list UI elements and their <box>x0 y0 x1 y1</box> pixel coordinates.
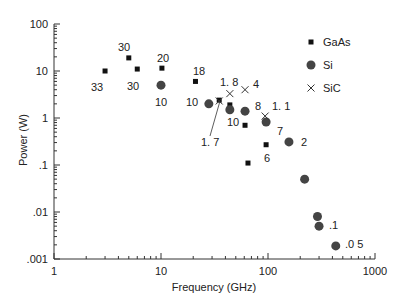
square-marker <box>103 69 108 74</box>
legend-label: Si <box>323 59 333 71</box>
point-label: 10 <box>227 116 239 128</box>
point-label: 2 <box>301 136 307 148</box>
square-marker <box>309 40 314 45</box>
point-label: 4 <box>253 78 259 90</box>
y-tick-label: .01 <box>33 206 48 218</box>
x-tick-label: 1 <box>51 265 57 277</box>
point-label: 6 <box>264 152 270 164</box>
legend-label: GaAs <box>323 36 351 48</box>
circle-marker <box>331 241 340 250</box>
y-axis-label: Power (W) <box>17 114 29 166</box>
point-label: 1. 7 <box>201 136 219 148</box>
point-label: 10 <box>155 96 167 108</box>
point-label: 33 <box>91 81 103 93</box>
power-vs-frequency-chart: 1101001000100101.1.01.001 33303020101810… <box>0 0 403 307</box>
x-tick-label: 10 <box>155 265 167 277</box>
circle-marker <box>300 175 309 184</box>
point-label: 8 <box>255 100 261 112</box>
y-tick-label: .001 <box>27 253 48 265</box>
y-tick-label: 100 <box>30 18 48 30</box>
y-tick-label: .1 <box>39 159 48 171</box>
square-marker <box>135 67 140 72</box>
point-label: 10 <box>186 96 198 108</box>
x-tick-label: 100 <box>259 265 277 277</box>
legend: GaAsSiSiC <box>307 36 352 94</box>
circle-marker <box>225 105 234 114</box>
x-marker <box>308 85 315 92</box>
legend-label: SiC <box>323 82 341 94</box>
annotations: 333030201018101. 848101. 71. 1726.1.0 5 <box>91 41 363 250</box>
x-marker <box>242 86 249 93</box>
y-tick-label: 1 <box>42 112 48 124</box>
circle-marker <box>204 99 213 108</box>
square-marker <box>245 161 250 166</box>
circle-marker <box>315 222 324 231</box>
legend-item-sic: SiC <box>308 82 341 94</box>
circle-marker <box>284 137 293 146</box>
legend-item-gaas: GaAs <box>309 36 352 48</box>
point-label: .0 5 <box>345 238 363 250</box>
point-label: 1. 1 <box>272 100 290 112</box>
x-tick-label: 1000 <box>363 265 387 277</box>
circle-marker <box>307 61 316 70</box>
point-label: 7 <box>277 125 283 137</box>
square-marker <box>126 55 131 60</box>
square-marker <box>193 79 198 84</box>
circle-marker <box>313 212 322 221</box>
square-marker <box>159 66 164 71</box>
point-label: 18 <box>193 65 205 77</box>
square-marker <box>264 142 269 147</box>
circle-marker <box>157 81 166 90</box>
square-marker <box>217 98 222 103</box>
circle-marker <box>241 107 250 116</box>
legend-item-si: Si <box>307 59 333 71</box>
square-marker <box>243 123 248 128</box>
y-tick-label: 10 <box>36 65 48 77</box>
x-marker <box>226 90 233 97</box>
point-label: 30 <box>127 80 139 92</box>
point-label: 20 <box>157 52 169 64</box>
point-label: 1. 8 <box>220 76 238 88</box>
point-label: 30 <box>118 41 130 53</box>
point-label: .1 <box>329 219 338 231</box>
x-axis-label: Frequency (GHz) <box>172 281 256 293</box>
